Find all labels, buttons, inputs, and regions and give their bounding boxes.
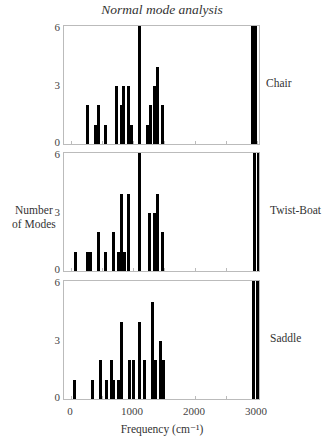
series-label-saddle: Saddle [270, 332, 301, 344]
histogram-bar [257, 152, 260, 271]
x-tick-mark [195, 396, 196, 399]
histogram-bar [146, 125, 149, 144]
histogram-bar [253, 152, 256, 271]
histogram-bar [251, 25, 254, 144]
x-tick-mark [164, 268, 165, 271]
histogram-bar [256, 280, 259, 399]
x-tick-3000: 3000 [245, 405, 267, 417]
x-tick-mark [102, 141, 103, 144]
histogram-bar [127, 86, 130, 144]
histogram-bar [252, 280, 255, 399]
histogram-bar [138, 25, 141, 144]
x-tick-mark [164, 141, 165, 144]
histogram-bar [99, 360, 102, 399]
histogram-bar [115, 86, 118, 144]
panel-saddle [63, 280, 260, 400]
histogram-bar [120, 194, 123, 271]
histogram-bar [151, 302, 154, 399]
histogram-bar [254, 25, 257, 144]
x-tick-mark [195, 268, 196, 271]
histogram-bar [162, 360, 165, 399]
x-tick-mark [71, 141, 72, 144]
y-tick-0: 0 [48, 391, 60, 403]
histogram-bar [138, 322, 141, 399]
histogram-bar [104, 252, 107, 271]
histogram-bar [97, 232, 100, 271]
x-tick-mark [226, 268, 227, 271]
y-axis-label-line2: of Modes [12, 217, 56, 231]
histogram-bar [122, 86, 125, 144]
series-label-chair: Chair [266, 77, 292, 89]
histogram-bar [117, 380, 120, 399]
x-tick-mark [226, 396, 227, 399]
histogram-bar [143, 360, 146, 399]
histogram-bar [112, 380, 115, 399]
series-label-twist-boat: Twist-Boat [270, 204, 321, 216]
histogram-bar [156, 194, 159, 271]
histogram-bar [74, 252, 77, 271]
histogram-bar [156, 67, 159, 144]
histogram-bar [120, 322, 123, 399]
y-tick-3: 3 [48, 334, 60, 346]
x-tick-mark [102, 268, 103, 271]
histogram-bar [161, 232, 164, 271]
chart-title: Normal mode analysis [0, 2, 324, 18]
panel-chair [63, 25, 260, 145]
panel-twist-boat [63, 152, 260, 272]
x-tick-mark [71, 268, 72, 271]
histogram-bar [86, 252, 89, 271]
x-tick-2000: 2000 [183, 405, 205, 417]
histogram-bar [86, 105, 89, 144]
histogram-bar [153, 213, 156, 271]
y-tick-6: 6 [48, 276, 60, 288]
histogram-bar [132, 360, 135, 399]
x-axis-label: Frequency (cm⁻¹) [0, 422, 324, 436]
histogram-bar [153, 86, 156, 144]
histogram-bar [161, 105, 164, 144]
histogram-bar [112, 232, 115, 271]
x-tick-mark [226, 141, 227, 144]
x-tick-mark [102, 396, 103, 399]
histogram-bar [130, 125, 133, 144]
histogram-bar [128, 360, 131, 399]
y-tick-6: 6 [48, 21, 60, 33]
y-tick-0: 0 [48, 263, 60, 275]
histogram-bar [104, 125, 107, 144]
histogram-bar [91, 380, 94, 399]
x-tick-0: 0 [67, 405, 73, 417]
x-tick-mark [133, 268, 134, 271]
histogram-bar [97, 105, 100, 144]
y-tick-3: 3 [48, 79, 60, 91]
histogram-bar [148, 213, 151, 271]
y-tick-6: 6 [48, 148, 60, 160]
histogram-bar [105, 380, 108, 399]
histogram-bar [154, 360, 157, 399]
histogram-bar [127, 194, 130, 271]
x-tick-mark [195, 141, 196, 144]
histogram-bar [138, 152, 141, 271]
x-tick-1000: 1000 [121, 405, 143, 417]
histogram-bar [89, 252, 92, 271]
y-tick-3: 3 [48, 206, 60, 218]
y-tick-0: 0 [48, 136, 60, 148]
histogram-bar [73, 380, 76, 399]
